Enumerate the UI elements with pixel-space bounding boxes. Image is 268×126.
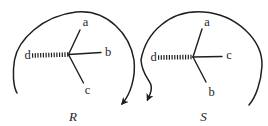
bond-to-b [69, 53, 102, 55]
bond-to-c [193, 57, 222, 58]
bond-to-a [69, 30, 81, 55]
hashed-bond-to-d [158, 57, 193, 58]
bond-to-c [69, 55, 84, 84]
substituent-label-b: b [208, 85, 214, 99]
substituent-label-b: b [105, 45, 111, 59]
configuration-label-s: S [200, 109, 207, 124]
bond-to-a [193, 29, 202, 57]
substituent-label-a: a [83, 15, 89, 29]
stereochemistry-figure: a b c d R a c b d S [0, 0, 268, 126]
substituent-label-c: c [226, 48, 232, 62]
substituent-label-d: d [150, 50, 157, 64]
rs-configuration-diagram-canvas: a b c d R a c b d S [0, 0, 268, 126]
hashed-bond-to-d [32, 55, 69, 56]
r-configuration-diagram: a b c d R [13, 12, 134, 124]
substituent-label-a: a [204, 15, 210, 29]
substituent-label-d: d [24, 48, 31, 62]
clockwise-rotation-arrow-icon [13, 12, 134, 104]
substituent-label-c: c [85, 83, 91, 97]
configuration-label-r: R [68, 109, 77, 124]
s-configuration-diagram: a c b d S [141, 12, 262, 124]
bond-to-b [193, 57, 206, 82]
